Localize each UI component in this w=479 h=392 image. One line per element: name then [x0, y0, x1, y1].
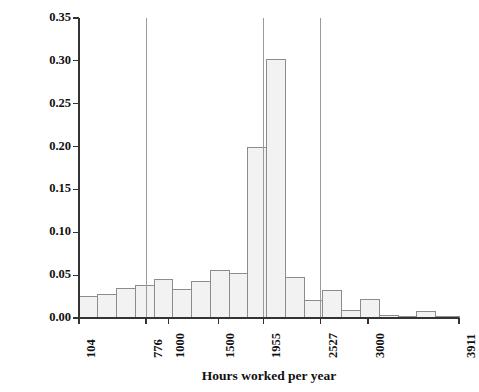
histogram-bar — [154, 279, 173, 318]
x-tick-label: 2527 — [326, 333, 341, 358]
histogram-bar — [117, 288, 136, 318]
histogram-bar — [360, 299, 379, 318]
bars-group — [79, 59, 459, 318]
y-tick-label: 0.05 — [31, 267, 71, 282]
histogram-bar — [323, 291, 342, 318]
histogram-bar — [417, 311, 436, 318]
y-tick-label: 0.15 — [31, 181, 71, 196]
y-tick-label: 0.30 — [31, 53, 71, 68]
histogram-bar — [192, 281, 211, 318]
histogram-bar — [304, 300, 323, 318]
y-tick-label: 0.25 — [31, 96, 71, 111]
histogram-bar — [229, 273, 248, 318]
histogram-bar — [135, 285, 154, 318]
x-tick-label: 3000 — [373, 333, 388, 358]
histogram-bar — [79, 297, 98, 318]
histogram-bar — [210, 270, 229, 318]
y-tick-label: 0.20 — [31, 139, 71, 154]
y-tick-label: 0.35 — [31, 10, 71, 25]
y-tick-label: 0.00 — [31, 310, 71, 325]
y-tick-label: 0.10 — [31, 224, 71, 239]
x-tick-label: 1955 — [269, 333, 284, 358]
x-tick-label: 1500 — [223, 333, 238, 358]
histogram-bar — [173, 290, 192, 318]
histogram-bar — [285, 278, 304, 318]
histogram-bar — [98, 295, 117, 318]
x-tick-label: 3911 — [464, 334, 479, 358]
x-tick-label: 1000 — [173, 333, 188, 358]
histogram-bar — [342, 310, 361, 318]
x-tick-label: 776 — [151, 339, 166, 358]
x-tick-label: 104 — [84, 339, 99, 358]
histogram-bar — [267, 59, 286, 318]
